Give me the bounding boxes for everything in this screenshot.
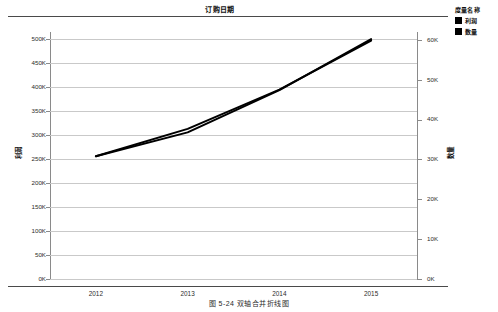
left-tick-mark [46,159,50,160]
legend-swatch-icon [455,17,462,24]
series-line-利润 [96,41,371,157]
figure-container: 订购日期 0K50K100K150K200K250K300K350K400K45… [0,0,498,312]
left-tick-mark [46,231,50,232]
left-tick-mark [46,279,50,280]
left-tick-label: 200K [32,180,46,186]
left-tick-mark [46,63,50,64]
right-tick-label: 10K [427,236,438,242]
left-tick-label: 500K [32,36,46,42]
x-axis-label: 2014 [272,290,286,297]
gridline [50,279,417,280]
left-tick-label: 50K [35,252,46,258]
figure-caption: 图 5-24 双轴合并折线图 [0,298,498,308]
legend-item-label: 利润 [465,16,477,25]
left-tick-mark [46,111,50,112]
right-tick-mark [418,239,422,240]
series-line-数量 [96,39,371,156]
right-tick-label: 50K [427,77,438,83]
left-tick-mark [46,39,50,40]
legend-item[interactable]: 数量 [455,27,498,36]
legend-swatch-icon [455,28,462,35]
left-tick-mark [46,87,50,88]
left-axis-ticks: 0K50K100K150K200K250K300K350K400K450K500… [0,0,46,312]
x-axis-label: 2015 [364,290,378,297]
x-axis-label: 2012 [89,290,103,297]
right-tick-label: 30K [427,156,438,162]
right-tick-label: 20K [427,196,438,202]
right-tick-mark [418,40,422,41]
title-divider [8,16,448,17]
left-tick-label: 350K [32,108,46,114]
left-tick-mark [46,183,50,184]
right-axis-ticks: 0K10K20K30K40K50K60K [422,0,462,312]
legend-title: 度量名称 [455,5,498,14]
right-tick-label: 0K [427,276,435,282]
chart-title: 订购日期 [0,4,440,14]
right-tick-label: 40K [427,116,438,122]
x-axis-label: 2013 [181,290,195,297]
right-tick-label: 60K [427,37,438,43]
left-tick-label: 400K [32,84,46,90]
legend: 度量名称 利润数量 [455,5,498,38]
left-tick-label: 150K [32,204,46,210]
left-tick-label: 300K [32,132,46,138]
left-tick-mark [46,207,50,208]
left-tick-label: 250K [32,156,46,162]
legend-item[interactable]: 利润 [455,16,498,25]
legend-item-label: 数量 [465,27,477,36]
left-tick-mark [46,255,50,256]
left-tick-mark [46,135,50,136]
bottom-axis-line [8,286,448,287]
right-tick-mark [418,199,422,200]
right-tick-mark [418,159,422,160]
right-axis-title: 数量 [446,133,455,173]
left-axis-title: 利润 [14,133,23,173]
legend-items: 利润数量 [455,16,498,36]
right-tick-mark [418,80,422,81]
right-axis-line [417,32,418,280]
series-layer [50,32,417,279]
left-tick-label: 100K [32,228,46,234]
left-tick-label: 450K [32,60,46,66]
right-tick-mark [418,279,422,280]
left-tick-label: 0K [38,276,46,282]
right-tick-mark [418,120,422,121]
